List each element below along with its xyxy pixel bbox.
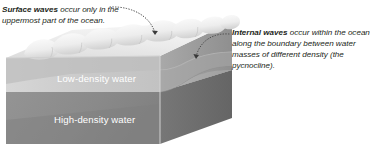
callout-internal-waves: Internal waves occur within the ocean al… (232, 27, 371, 71)
callout-term-surface-waves: Surface waves (2, 5, 58, 14)
callout-surface-waves: Surface waves occur only in the uppermos… (2, 4, 142, 26)
layer-label-high-density: High-density water (54, 114, 135, 125)
block-front-face (6, 56, 160, 144)
callout-term-internal-waves: Internal waves (232, 28, 288, 37)
figure-canvas: Surface waves occur only in the uppermos… (0, 0, 371, 144)
layer-label-low-density: Low-density water (57, 73, 136, 84)
